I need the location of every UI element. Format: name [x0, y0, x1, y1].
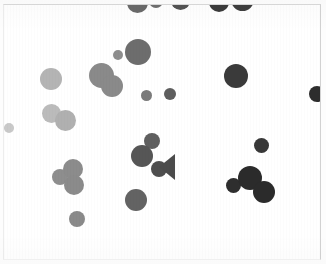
canvas-frame	[3, 4, 321, 260]
blob-p10	[101, 75, 123, 97]
blob-p14	[309, 86, 320, 102]
blob-p16	[55, 110, 76, 131]
blob-p07	[125, 39, 151, 65]
blob-p08	[40, 68, 62, 90]
blob-p11	[141, 90, 152, 101]
blob-p26	[69, 211, 85, 227]
blob-p13	[224, 64, 248, 88]
blob-p06	[113, 50, 123, 60]
blob-p02	[149, 5, 163, 8]
blob-p29	[253, 181, 275, 203]
blob-p04	[209, 5, 229, 12]
blob-p03	[171, 5, 190, 10]
blob-p05	[231, 5, 254, 11]
blob-p01	[127, 5, 148, 13]
blob-layer	[4, 5, 320, 259]
blob-p12	[164, 88, 176, 100]
blob-p17	[4, 123, 14, 133]
blob-p19	[131, 145, 153, 167]
wedge-w01	[159, 154, 175, 180]
blob-p24	[64, 175, 84, 195]
blob-p25	[125, 189, 147, 211]
blob-p21	[254, 138, 269, 153]
figure-stage	[0, 0, 326, 264]
